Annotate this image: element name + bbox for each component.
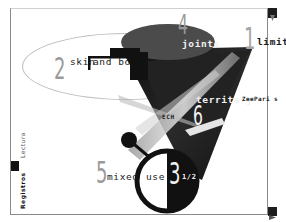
nav-number-4[interactable]: 4 (178, 12, 188, 38)
sidebar-tab-registros[interactable]: Registros (19, 172, 26, 209)
nav-label-joints[interactable]: joints (182, 39, 220, 49)
nav-number-5[interactable]: 5 (96, 158, 107, 188)
next-arrow-icon[interactable] (268, 207, 277, 216)
nav-number-2[interactable]: 2 (54, 54, 65, 84)
nav-label-skin[interactable]: skin (70, 57, 95, 67)
nav-label-limits[interactable]: limits (257, 37, 286, 47)
brand-label: ZeePari s (242, 96, 278, 102)
nav-label-mixed[interactable]: mixed (107, 172, 139, 182)
dropdown-arrow-icon[interactable] (268, 8, 277, 18)
nav-number-6[interactable]: 6 (193, 103, 203, 129)
sidebar-tab-registros-box[interactable] (11, 162, 19, 171)
nav-label-and-bones[interactable]: and bo (93, 57, 131, 67)
nav-number-3[interactable]: 3 (169, 159, 180, 189)
nav-label-use[interactable]: use (146, 172, 165, 182)
nav-fraction-half: 1/2 (182, 174, 196, 181)
nav-number-1[interactable]: 1 (244, 24, 255, 54)
tech-label: ECH (162, 114, 175, 120)
sidebar-tab-lectura[interactable]: Lectura (19, 132, 26, 158)
